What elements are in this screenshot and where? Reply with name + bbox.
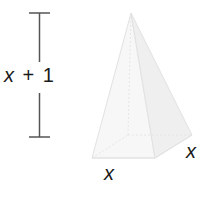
height-label: x + 1 [4,64,54,87]
base-side-label: x [186,140,196,163]
base-front-label: x [104,162,114,185]
height-op: + [23,64,35,86]
height-var: x [4,64,14,86]
pyramid [92,13,192,158]
height-num: 1 [43,64,54,86]
